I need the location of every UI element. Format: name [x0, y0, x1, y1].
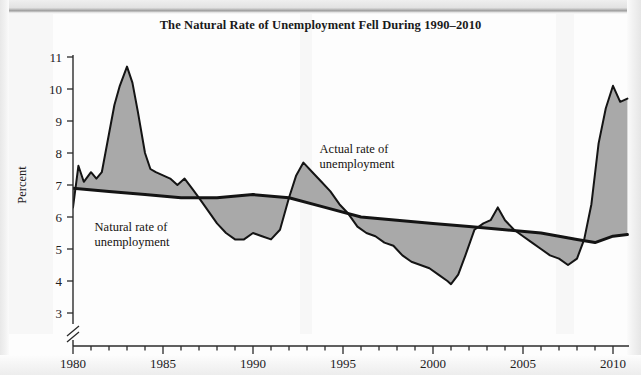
svg-text:4: 4: [56, 274, 63, 289]
svg-text:unemployment: unemployment: [320, 157, 396, 171]
svg-text:2000: 2000: [420, 356, 446, 371]
annotation-natural: Natural rate ofunemployment: [95, 220, 171, 249]
svg-text:unemployment: unemployment: [95, 235, 171, 249]
svg-text:2010: 2010: [600, 356, 626, 371]
svg-text:1990: 1990: [240, 356, 266, 371]
svg-text:6: 6: [56, 210, 63, 225]
chart-plot: 34567891011Percent1980198519901995200020…: [0, 0, 641, 375]
svg-text:Natural rate of: Natural rate of: [95, 220, 169, 234]
svg-text:1980: 1980: [60, 356, 86, 371]
svg-text:11: 11: [49, 50, 62, 65]
svg-text:8: 8: [56, 146, 63, 161]
svg-text:1985: 1985: [150, 356, 176, 371]
svg-text:Actual rate of: Actual rate of: [320, 142, 390, 156]
svg-text:2005: 2005: [510, 356, 536, 371]
svg-text:1995: 1995: [330, 356, 356, 371]
svg-text:Percent: Percent: [15, 166, 29, 204]
svg-text:7: 7: [56, 178, 63, 193]
chart-axes: [67, 55, 629, 354]
svg-text:10: 10: [49, 82, 62, 97]
svg-text:3: 3: [56, 306, 63, 321]
axis-tick-labels: 34567891011Percent1980198519901995200020…: [15, 50, 626, 372]
svg-text:5: 5: [56, 242, 63, 257]
annotation-actual: Actual rate ofunemployment: [320, 142, 396, 171]
figure-container: The Natural Rate of Unemployment Fell Du…: [0, 0, 641, 375]
svg-text:9: 9: [56, 114, 63, 129]
